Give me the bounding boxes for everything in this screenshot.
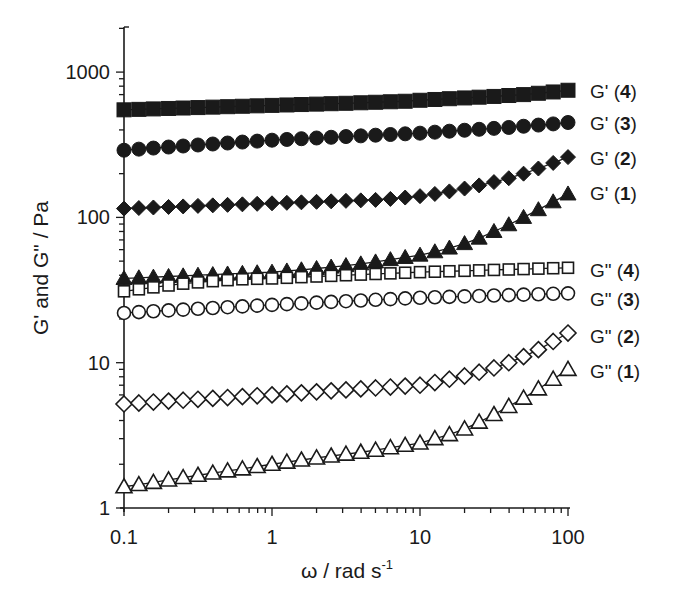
series-circle-filled-3 (117, 115, 575, 157)
legend-label: G" (1) (590, 361, 640, 382)
y-tick-label: 1000 (66, 61, 111, 83)
y-tick-label: 10 (88, 352, 110, 374)
series-diamond-open-2 (116, 325, 576, 412)
legend-label: G' (3) (590, 113, 637, 134)
legend-label: G' (2) (590, 148, 637, 169)
series-diamond-filled-2 (117, 150, 576, 216)
y-tick-label: 1 (99, 497, 110, 519)
x-axis-title: ω / rad s-1 (301, 557, 393, 582)
y-axis-title: G' and G" / Pa (29, 201, 52, 335)
x-tick-label: 100 (551, 526, 584, 548)
series-layer (116, 83, 576, 493)
x-tick-label: 10 (409, 526, 431, 548)
legend-label: G" (4) (590, 260, 640, 281)
series-square-filled-4 (117, 83, 575, 117)
legend-label: G" (2) (590, 326, 640, 347)
y-tick-label: 100 (77, 206, 110, 228)
legend-label: G' (1) (590, 183, 637, 204)
rheology-chart: 11010010000.1110100 G' (4)G' (3)G' (2)G'… (0, 0, 674, 605)
legend-label: G" (3) (590, 289, 640, 310)
legend-label: G' (4) (590, 81, 637, 102)
x-tick-label: 1 (266, 526, 277, 548)
x-tick-label: 0.1 (110, 526, 138, 548)
series-circle-open-3 (118, 287, 575, 320)
legend: G' (4)G' (3)G' (2)G' (1)G" (4)G" (3)G" (… (590, 81, 640, 382)
